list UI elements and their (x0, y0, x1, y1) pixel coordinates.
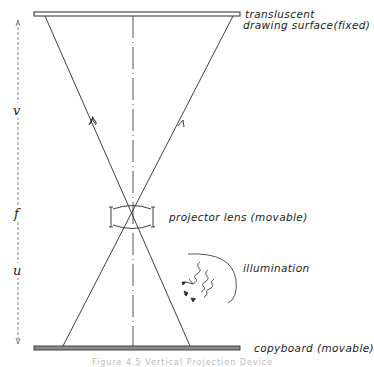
figure-caption: Figure 4.5 Vertical Projection Device (92, 358, 273, 367)
ray-right (45, 16, 190, 346)
drawing-surface-label-line2: drawing surface(fixed) (243, 20, 370, 31)
projector-lens-label: projector lens (movable) (169, 212, 308, 223)
copyboard (34, 346, 240, 350)
object-distance-symbol: u (13, 263, 21, 278)
image-distance-symbol: v (13, 103, 20, 118)
lens-icon (109, 206, 155, 229)
ray-left (63, 16, 233, 346)
focal-symbol: f (14, 206, 19, 221)
drawing-surface (34, 12, 240, 16)
ray-arrow-icon (93, 120, 97, 150)
illumination-label: illumination (243, 263, 310, 274)
light-wave-icon (182, 262, 214, 302)
copyboard-label: copyboard (movable) (254, 343, 374, 354)
